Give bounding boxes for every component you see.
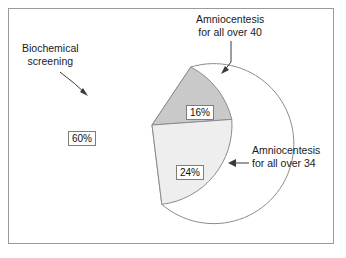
- annotation-biochemical-screening-line2: screening: [22, 55, 79, 68]
- annotation-amniocentesis-over-34-line2: for all over 34: [252, 157, 320, 170]
- slice-value-label-amniocentesis-over-40: 16%: [186, 105, 214, 120]
- slice-value-label-biochemical-screening: 60%: [68, 131, 96, 146]
- annotation-biochemical-screening: Biochemical screening: [22, 42, 79, 67]
- annotation-amniocentesis-over-34-line1: Amniocentesis: [252, 144, 320, 157]
- pie-chart-graphic: [0, 0, 346, 258]
- annotation-amniocentesis-over-40-line2: for all over 40: [196, 26, 264, 39]
- annotation-amniocentesis-over-40-line1: Amniocentesis: [196, 13, 264, 26]
- slice-value-label-amniocentesis-over-34: 24%: [176, 165, 204, 180]
- annotation-biochemical-screening-line1: Biochemical: [22, 42, 79, 55]
- annotation-amniocentesis-over-34: Amniocentesis for all over 34: [252, 144, 320, 169]
- pie-chart-figure: Biochemical screening Amniocentesis for …: [0, 0, 346, 258]
- annotation-amniocentesis-over-40: Amniocentesis for all over 40: [196, 13, 264, 38]
